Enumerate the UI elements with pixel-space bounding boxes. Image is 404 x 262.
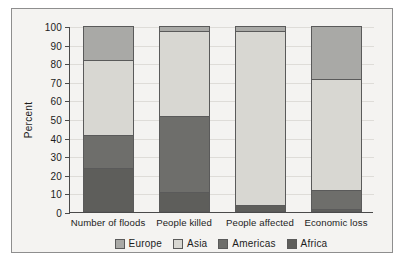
bar-segment-asia[interactable] <box>312 79 361 190</box>
x-axis-label: People affected <box>226 217 294 228</box>
stacked-bar[interactable] <box>159 26 210 212</box>
bar-segment-europe[interactable] <box>84 27 133 60</box>
legend-swatch-icon <box>115 239 125 249</box>
stacked-bar[interactable] <box>311 26 362 212</box>
legend-swatch-icon <box>287 239 297 249</box>
bar-segment-asia[interactable] <box>160 31 209 117</box>
bar-segment-asia[interactable] <box>236 31 285 205</box>
y-axis-tick-label: 50 <box>50 115 62 126</box>
stacked-bar[interactable] <box>83 26 134 212</box>
y-axis-tick-label: 30 <box>50 152 62 163</box>
y-axis-tick-label: 40 <box>50 133 62 144</box>
legend-label: Africa <box>301 238 328 249</box>
bar-segment-americas[interactable] <box>84 135 133 168</box>
y-axis-tick <box>65 176 70 177</box>
legend-swatch-icon <box>218 239 228 249</box>
y-axis-tick <box>65 139 70 140</box>
legend: EuropeAsiaAmericasAfrica <box>69 238 373 249</box>
bar-segment-africa[interactable] <box>160 192 209 212</box>
y-axis-tick <box>65 194 70 195</box>
y-axis-tick-label: 60 <box>50 96 62 107</box>
y-axis-tick-label: 10 <box>50 189 62 200</box>
y-axis-tick-label: 20 <box>50 170 62 181</box>
y-axis-tick <box>65 64 70 65</box>
x-axis-label: People killed <box>156 217 212 228</box>
y-axis-tick-label: 90 <box>50 40 62 51</box>
bar-segment-americas[interactable] <box>312 190 361 210</box>
x-axis-label: Economic loss <box>304 217 367 228</box>
legend-item-europe[interactable]: Europe <box>115 238 162 249</box>
y-axis-tick <box>65 157 70 158</box>
y-axis-tick <box>65 27 70 28</box>
bar-segment-europe[interactable] <box>312 27 361 79</box>
y-axis-label: Percent <box>23 102 34 139</box>
y-axis-tick-label: 0 <box>56 208 62 219</box>
plot-area: 0102030405060708090100 Number of floodsP… <box>69 27 373 213</box>
legend-label: Europe <box>129 238 162 249</box>
legend-item-africa[interactable]: Africa <box>287 238 328 249</box>
bar-segment-africa[interactable] <box>236 205 285 212</box>
legend-item-americas[interactable]: Americas <box>218 238 275 249</box>
stacked-bar[interactable] <box>235 26 286 212</box>
legend-label: Americas <box>232 238 275 249</box>
figure: Percent 0102030405060708090100 Number of… <box>0 0 404 262</box>
figure-frame: Percent 0102030405060708090100 Number of… <box>11 8 393 253</box>
y-axis-tick <box>65 46 70 47</box>
bar-segment-americas[interactable] <box>160 116 209 191</box>
legend-item-asia[interactable]: Asia <box>173 238 207 249</box>
bar-segment-africa[interactable] <box>84 168 133 212</box>
y-axis-tick <box>65 213 70 214</box>
y-axis-tick-label: 70 <box>50 77 62 88</box>
x-axis-label: Number of floods <box>71 217 146 228</box>
y-axis-tick <box>65 120 70 121</box>
bar-segment-africa[interactable] <box>312 209 361 212</box>
bar-segment-asia[interactable] <box>84 60 133 134</box>
y-axis-tick-label: 100 <box>45 22 62 33</box>
y-axis-tick <box>65 101 70 102</box>
y-axis-tick-label: 80 <box>50 59 62 70</box>
y-axis-tick <box>65 83 70 84</box>
legend-label: Asia <box>187 238 207 249</box>
legend-swatch-icon <box>173 239 183 249</box>
